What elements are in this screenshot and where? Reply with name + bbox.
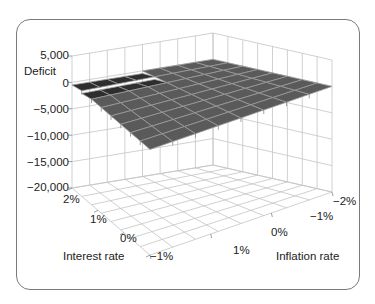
x-tick-2pct: 2% [63, 193, 80, 205]
z-tick-minus10000: −10,000 [27, 130, 69, 142]
z-tick-5000: 5,000 [40, 49, 69, 61]
z-tick-0: 0 [63, 77, 69, 89]
z-axis-title: Deficit [24, 65, 56, 77]
z-tick-minus20000: −20,000 [27, 181, 69, 193]
y-tick-0pct: 0% [271, 226, 288, 238]
x-tick-minus1pct: −1% [150, 250, 173, 262]
y-tick-minus2pct: −2% [333, 195, 356, 207]
y-tick-minus1pct: −1% [310, 210, 333, 222]
x-tick-1pct: 1% [90, 213, 107, 225]
y-tick-1pct: 1% [233, 244, 250, 256]
x-axis-title: Interest rate [63, 250, 124, 262]
y-axis-title: Inflation rate [276, 250, 339, 262]
z-tick-minus15000: −15,000 [27, 156, 69, 168]
x-tick-0pct: 0% [120, 232, 137, 244]
z-tick-minus5000: −5,000 [34, 103, 70, 115]
